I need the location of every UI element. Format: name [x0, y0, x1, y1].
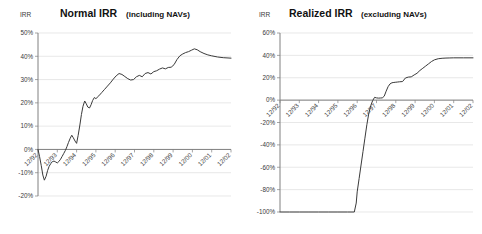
y-axis-label: 30%: [20, 76, 33, 83]
chart-panel-realized-irr: Realized IRR(excluding NAVs)IRR60%40%20%…: [241, 0, 482, 234]
realized-irr-chart: Realized IRR(excluding NAVs)IRR60%40%20%…: [241, 0, 482, 234]
x-axis-label: 12/02: [458, 102, 474, 118]
chart-sheet: Normal IRR(including NAVs)IRR50%40%30%20…: [0, 0, 482, 234]
x-axis-label: 12/98: [380, 102, 396, 118]
y-axis-label: 50%: [20, 29, 33, 36]
y-axis-label: 40%: [20, 53, 33, 60]
y-axis-label: -40%: [260, 141, 275, 148]
x-axis-label: 12/93: [284, 102, 300, 118]
x-axis-label: 12/98: [138, 151, 154, 167]
x-axis-label: 12/00: [177, 151, 193, 167]
x-axis-label: 12/96: [342, 102, 358, 118]
y-axis-label: 10%: [20, 122, 33, 129]
normal-irr-chart: Normal IRR(including NAVs)IRR50%40%30%20…: [0, 0, 241, 234]
y-axis-label: 20%: [262, 74, 275, 81]
x-axis-label: 12/97: [119, 151, 135, 167]
y-axis-label: -20%: [18, 192, 33, 199]
chart-title-sub: (including NAVs): [126, 10, 190, 19]
y-axis-label: -20%: [260, 119, 275, 126]
y-axis-label: -10%: [18, 169, 33, 176]
chart-title-sub: (excluding NAVs): [361, 10, 427, 19]
x-axis-label: 12/94: [303, 102, 319, 118]
y-axis-label: -100%: [257, 208, 276, 215]
x-axis-label: 12/99: [158, 151, 174, 167]
x-axis-label: 12/01: [196, 151, 212, 167]
x-axis-label: 12/95: [323, 102, 339, 118]
y-axis-label: 60%: [262, 29, 275, 36]
x-axis-label: 12/99: [400, 102, 416, 118]
chart-title-main: Realized IRR: [289, 7, 353, 19]
y-axis-label: -80%: [260, 186, 275, 193]
y-axis-label: 40%: [262, 52, 275, 59]
y-axis-title: IRR: [259, 11, 271, 18]
x-axis-label: 12/92: [23, 151, 39, 167]
x-axis-label: 12/96: [100, 151, 116, 167]
x-axis-label: 12/02: [216, 151, 232, 167]
y-axis-title: IRR: [20, 11, 32, 18]
x-axis-label: 12/92: [265, 102, 281, 118]
x-axis-label: 12/01: [438, 102, 454, 118]
x-axis-label: 12/00: [419, 102, 435, 118]
series-line-realized-irr: [280, 58, 473, 212]
y-axis-label: -60%: [260, 164, 275, 171]
x-axis-label: 12/95: [81, 151, 97, 167]
y-axis-label: 20%: [20, 99, 33, 106]
chart-title-main: Normal IRR: [60, 7, 118, 19]
chart-panel-normal-irr: Normal IRR(including NAVs)IRR50%40%30%20…: [0, 0, 241, 234]
